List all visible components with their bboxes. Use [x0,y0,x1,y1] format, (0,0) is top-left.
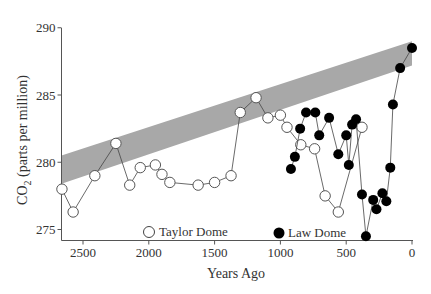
open-circle-marker [57,184,67,194]
open-circle-marker [135,162,145,172]
open-circle-marker [193,180,203,190]
filled-circle-marker [351,114,361,124]
filled-circle-marker [333,149,343,159]
open-circle-marker [68,207,78,217]
open-circle-marker [209,177,219,187]
filled-circle-marker [395,63,405,73]
filled-circle-marker [357,190,367,200]
x-tick-label: 500 [336,245,356,260]
filled-circle-marker [381,196,391,206]
filled-circle-marker [371,204,381,214]
filled-circle-marker [361,231,371,241]
filled-circle-marker [324,113,334,123]
filled-circle-marker [385,163,395,173]
filled-circle-marker [344,160,354,170]
filled-circle-marker [295,124,305,134]
open-circle-marker [320,191,330,201]
filled-circle-marker [368,195,378,205]
y-axis-title-main: CO [15,185,30,204]
open-circle-marker [263,113,273,123]
x-tick-label: 1500 [202,245,228,260]
open-circle-marker [111,138,121,148]
open-circle-marker [165,177,175,187]
legend-taylor-dome: Taylor Dome [159,224,228,239]
x-tick-label: 0 [409,245,416,260]
filled-circle-marker [286,164,296,174]
open-circle-marker [309,144,319,154]
open-circle-marker [251,92,261,102]
filled-circle-marker [310,107,320,117]
open-circle-marker [90,171,100,181]
filled-circle-marker [290,152,300,162]
filled-circle-marker [314,130,324,140]
y-ticks: 275280285290 [36,20,62,237]
x-ticks: 25002000150010005000 [70,241,415,260]
y-axis-title-rest: (parts per million) [15,75,31,181]
y-tick-label: 280 [36,155,56,170]
y-axis-title: CO2 (parts per million) [15,75,33,205]
open-circle-marker [235,107,245,117]
x-axis-title: Years Ago [207,266,265,281]
x-tick-label: 2000 [136,245,162,260]
open-circle-marker [150,160,160,170]
open-circle-marker [226,171,236,181]
filled-circle-marker [388,99,398,109]
open-circle-marker [157,169,167,179]
y-tick-label: 290 [36,20,56,35]
co2-chart: 275280285290 25002000150010005000 Years … [0,0,431,294]
legend-filled-circle-icon [274,228,285,239]
legend: Taylor Dome Law Dome [144,224,347,240]
y-tick-label: 285 [36,88,56,103]
open-circle-marker [275,110,285,120]
legend-open-circle-icon [144,227,155,238]
open-circle-marker [333,207,343,217]
filled-circle-marker [301,107,311,117]
open-circle-marker [125,180,135,190]
open-circle-marker [282,122,292,132]
legend-law-dome: Law Dome [288,225,346,240]
y-tick-label: 275 [36,222,56,237]
x-tick-label: 2500 [70,245,96,260]
filled-circle-marker [341,130,351,140]
x-tick-label: 1000 [267,245,293,260]
filled-circle-marker [407,43,417,53]
